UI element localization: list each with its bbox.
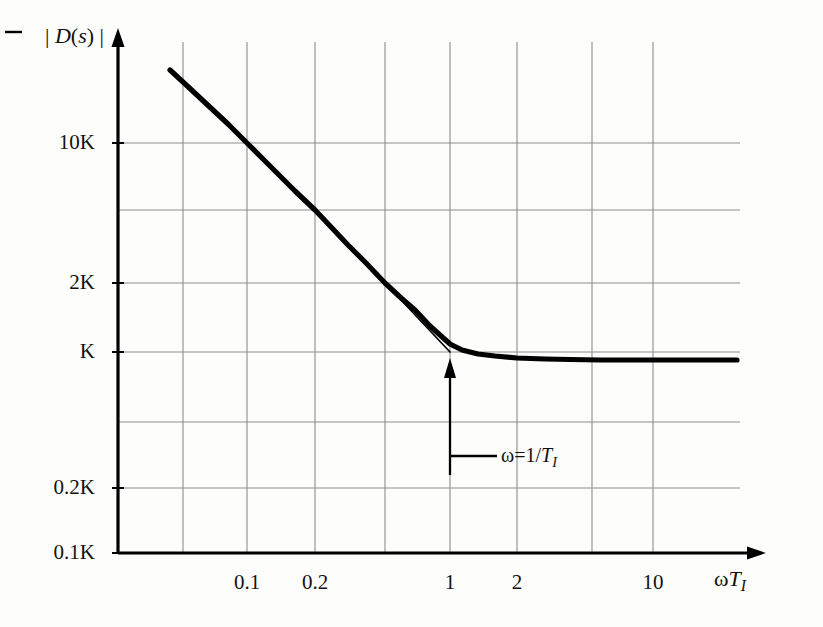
x-tick-label-10: 10 (623, 572, 683, 593)
y-tick-label-2K: 2K (33, 272, 95, 293)
y-tick-label-0.1K: 0.1K (22, 542, 95, 563)
y-axis-title: | D(s) | (45, 25, 104, 47)
x-tick-label-2: 2 (487, 572, 547, 593)
x-tick-label-0.2: 0.2 (285, 572, 345, 593)
x-axis-title: ωTI (714, 568, 746, 594)
chart-background (0, 0, 823, 627)
y-tick-label-K: K (33, 341, 95, 362)
y-tick-label-10K: 10K (33, 132, 95, 153)
x-tick-label-0.1: 0.1 (217, 572, 277, 593)
omega-annotation-label: ω=1/TI (501, 445, 557, 469)
x-tick-label-1: 1 (420, 572, 480, 593)
y-tick-label-0.2K: 0.2K (22, 477, 95, 498)
bode-magnitude-chart (0, 0, 823, 627)
